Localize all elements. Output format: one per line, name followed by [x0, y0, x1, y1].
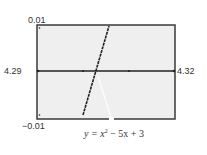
equation-lhs: y = x [84, 128, 105, 139]
x-min-label: 4.29 [4, 66, 22, 76]
equation-rhs: − 5x + 3 [108, 128, 144, 139]
x-tick-4.30 [82, 70, 84, 72]
y-max-label: 0.01 [28, 15, 46, 25]
x-tick-4.32 [173, 70, 176, 73]
corner-dot [39, 27, 41, 29]
x-max-label: 4.32 [177, 66, 195, 76]
y-min-label: −0.01 [22, 121, 45, 131]
callout-gap [109, 117, 114, 121]
equation-label: y = x2 − 5x + 3 [84, 128, 144, 139]
plot-frame [37, 25, 175, 119]
x-tick-4.31 [128, 70, 130, 72]
corner-dot [39, 114, 41, 116]
x-tick-4.29 [37, 70, 40, 73]
